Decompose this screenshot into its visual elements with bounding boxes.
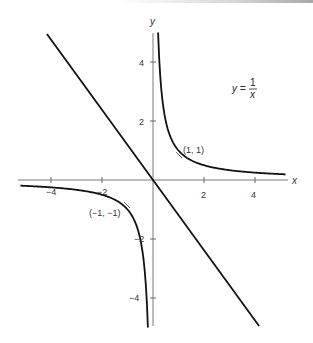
tick-label-x-2: 2: [201, 190, 206, 200]
tick-label-x-m2: −2: [97, 187, 107, 197]
annotation-point-m1-m1: (−1, −1): [89, 208, 121, 218]
tick-label-x-4: 4: [251, 190, 256, 200]
tick-label-y-m4: −4: [129, 293, 139, 303]
tick-label-y-2: 2: [139, 117, 144, 127]
tick-label-y-4: 4: [139, 58, 144, 68]
equation-label: y = 1 x: [231, 77, 257, 100]
equation-lhs: y =: [231, 83, 246, 94]
tick-label-y-m2: −2: [134, 234, 144, 244]
y-axis-label: y: [149, 16, 156, 27]
annotation-point-1-1: (1, 1): [183, 145, 204, 155]
chart-plot: −4 −2 2 4 4 2 −2 −4 x y (1, 1) (−1, −1) …: [0, 0, 313, 343]
equation-numerator: 1: [250, 77, 256, 88]
tick-label-x-m4: −4: [46, 187, 56, 197]
svg-text:y =: y =: [231, 83, 246, 94]
x-axis-label: x: [291, 175, 298, 186]
equation-denominator: x: [249, 89, 256, 100]
